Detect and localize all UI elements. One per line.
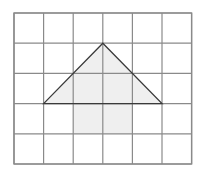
grid-figure-diagram [0,0,206,173]
